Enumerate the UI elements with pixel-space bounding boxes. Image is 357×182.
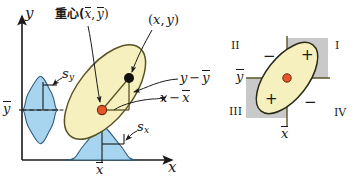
sign-quadrant-2: − <box>263 49 276 64</box>
dev-y-minus: − <box>189 70 200 85</box>
data-point-label: (x,y) <box>148 13 179 26</box>
centroid-marker <box>97 105 106 114</box>
quadrant-centroid-marker <box>283 74 291 82</box>
dev-x-minus: − <box>169 90 180 105</box>
sign-quadrant-4: − <box>304 95 317 110</box>
y-mean-tick-label: y <box>3 102 10 115</box>
y-axis-label: y <box>25 6 33 21</box>
y-mean-tick-text: y <box>3 102 10 115</box>
quadrant-label-3: III <box>229 106 242 117</box>
sd-x-symbol: s <box>137 119 144 134</box>
centroid-label-paren: ) <box>104 7 109 21</box>
sd-y-symbol: s <box>62 66 69 81</box>
data-point-marker <box>124 73 134 83</box>
dev-y-lead: y <box>180 70 187 85</box>
point-label-close: ) <box>174 12 179 27</box>
centroid-label-xbar: x <box>84 8 91 20</box>
centroid-label: 重心(x,y) <box>55 8 109 20</box>
sd-x-subscript: x <box>144 125 149 135</box>
x-axis-label: x <box>168 160 176 175</box>
centroid-label-ybar: y <box>97 8 104 20</box>
sd-y-label: sy <box>62 67 74 82</box>
x-mean-tick-label: x <box>96 163 103 176</box>
centroid-label-jp: 重心( <box>55 7 84 21</box>
sign-quadrant-3: + <box>265 92 278 107</box>
deviation-x-label: x−x <box>160 91 190 104</box>
centroid-label-comma: , <box>91 7 95 21</box>
deviation-y-label: y−y <box>180 71 210 84</box>
sd-y-subscript: y <box>69 72 74 82</box>
point-label-y: y <box>167 12 174 27</box>
quadrant-x-mean-label: x <box>281 127 288 140</box>
sd-x-label: sx <box>137 120 149 135</box>
quadrant-label-2: II <box>231 40 240 51</box>
quadrant-y-mean-label: y <box>236 70 243 83</box>
sign-quadrant-1: + <box>301 48 314 63</box>
dev-x-mean: x <box>182 91 189 104</box>
quadrant-label-1: I <box>335 40 339 51</box>
quadrant-x-mean-text: x <box>281 127 288 140</box>
quadrant-label-4: IV <box>334 107 346 118</box>
dev-y-mean: y <box>202 71 209 84</box>
x-mean-tick-text: x <box>96 163 103 176</box>
quadrant-y-mean-text: y <box>236 70 243 83</box>
point-label-comma: , <box>160 12 164 27</box>
dev-x-lead: x <box>160 90 167 105</box>
statistics-correlation-figure: y x y x 重心(x,y) (x,y) y−y x−x sy sx I II… <box>0 0 357 182</box>
